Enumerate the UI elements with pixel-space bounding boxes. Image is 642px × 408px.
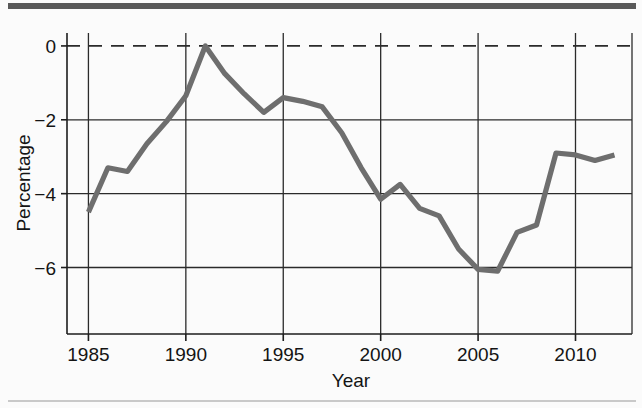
chart-svg: 0−2−4−6 198519901995200020052010 Year Pe…	[0, 0, 642, 408]
vertical-gridlines	[88, 33, 575, 334]
bottom-divider-rule	[8, 400, 636, 402]
y-axis-title: Percentage	[13, 134, 34, 231]
ytick-label: −2	[34, 110, 56, 131]
ytick-label: 0	[45, 36, 56, 57]
x-axis-title: Year	[332, 370, 371, 391]
xtick-label: 1985	[67, 344, 109, 365]
data-series-percentage	[88, 46, 614, 271]
xtick-label: 1995	[262, 344, 304, 365]
percentage-line	[88, 46, 614, 271]
xtick-label: 2000	[360, 344, 402, 365]
y-tick-labels: 0−2−4−6	[34, 36, 56, 279]
x-tick-labels: 198519901995200020052010	[67, 344, 596, 365]
figure-panel: 0−2−4−6 198519901995200020052010 Year Pe…	[0, 0, 642, 408]
xtick-label: 2005	[457, 344, 499, 365]
line-chart: 0−2−4−6 198519901995200020052010 Year Pe…	[0, 0, 642, 408]
ytick-label: −6	[34, 258, 56, 279]
xtick-label: 2010	[554, 344, 596, 365]
xtick-label: 1990	[165, 344, 207, 365]
ytick-label: −4	[34, 184, 56, 205]
